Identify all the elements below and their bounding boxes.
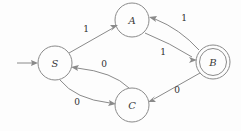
transition-label-s-to-c: 0 bbox=[74, 97, 80, 107]
transition-b-to-a[interactable]: 1 bbox=[149, 13, 199, 50]
state-node-a[interactable]: A bbox=[115, 3, 149, 37]
start-arrow bbox=[17, 60, 38, 66]
state-node-c[interactable]: C bbox=[115, 88, 149, 122]
transition-label-c-to-s: 0 bbox=[101, 59, 107, 69]
state-node-s[interactable]: S bbox=[38, 46, 72, 80]
state-label-c: C bbox=[128, 100, 136, 111]
transition-label-b-to-c: 0 bbox=[174, 85, 180, 95]
transition-label-s-to-a: 1 bbox=[83, 24, 89, 34]
state-label-s: S bbox=[52, 58, 59, 69]
transition-label-a-to-b: 1 bbox=[160, 47, 166, 57]
transition-label-b-to-a: 1 bbox=[181, 13, 187, 23]
state-label-b: B bbox=[208, 57, 216, 68]
transition-s-to-c[interactable]: 0 bbox=[60, 80, 116, 107]
transition-c-to-s[interactable]: 0 bbox=[71, 59, 129, 88]
fsm-diagram-svg: 1 1 1 0 0 0 bbox=[0, 0, 241, 131]
fsm-diagram-canvas: 1 1 1 0 0 0 bbox=[0, 0, 241, 131]
transition-s-to-a[interactable]: 1 bbox=[69, 24, 118, 53]
transition-a-to-b[interactable]: 1 bbox=[145, 33, 197, 63]
state-label-a: A bbox=[127, 15, 135, 26]
transition-b-to-c[interactable]: 0 bbox=[148, 73, 200, 102]
state-node-b[interactable]: B bbox=[196, 45, 230, 79]
